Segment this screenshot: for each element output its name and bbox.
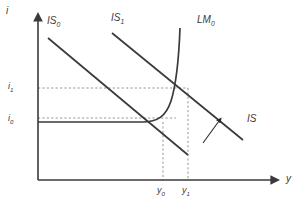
i0-label-subscript: 0 bbox=[10, 118, 13, 125]
lm0-label-subscript: 0 bbox=[211, 20, 215, 27]
diagram-canvas bbox=[0, 0, 304, 210]
is-lm-diagram: i y IS0 IS1 LM0 IS i1 i0 y0 y1 bbox=[0, 0, 304, 210]
lm0-label-base: LM bbox=[197, 14, 211, 25]
is1-label-subscript: 1 bbox=[120, 18, 124, 25]
is-shift-arrow bbox=[203, 121, 219, 143]
lm0-curve bbox=[38, 28, 180, 122]
y0-label-subscript: 0 bbox=[162, 190, 165, 197]
interest-rate-axis-label: i bbox=[6, 6, 8, 16]
is1-curve bbox=[112, 33, 243, 140]
is0-label-subscript: 0 bbox=[56, 21, 60, 28]
y0-tick-label: y0 bbox=[157, 186, 165, 197]
i1-tick-label: i1 bbox=[8, 82, 13, 93]
i0-tick-label: i0 bbox=[8, 114, 13, 125]
guide-lines bbox=[38, 88, 188, 180]
lm0-curve-label: LM0 bbox=[197, 15, 215, 28]
y1-tick-label: y1 bbox=[182, 186, 190, 197]
output-axis-label: y bbox=[286, 174, 291, 184]
is0-curve bbox=[48, 38, 188, 155]
is-shift-label: IS bbox=[247, 114, 256, 124]
i1-label-subscript: 1 bbox=[10, 86, 13, 93]
axes bbox=[38, 20, 272, 180]
is0-curve-label: IS0 bbox=[47, 16, 60, 29]
is1-curve-label: IS1 bbox=[111, 13, 124, 26]
y1-label-subscript: 1 bbox=[187, 190, 190, 197]
